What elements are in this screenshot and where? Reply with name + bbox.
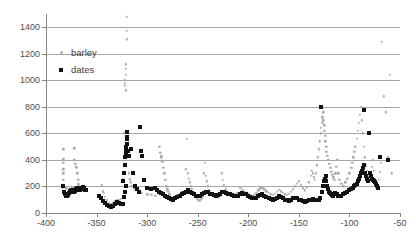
x-tick-label: -250 (189, 218, 207, 228)
data-point-dates (125, 142, 129, 146)
y-tick-label: 200 (0, 181, 40, 191)
data-point-dates (376, 186, 380, 190)
data-point-dates (319, 105, 323, 109)
x-tick-label: -300 (138, 218, 156, 228)
y-tick-label: 600 (0, 128, 40, 138)
data-point-dates (125, 130, 129, 134)
legend-label-barley: barley (71, 47, 97, 58)
data-point-dates (84, 188, 88, 192)
data-point-dates (362, 108, 366, 112)
data-point-dates (124, 184, 128, 188)
x-tick-mark (46, 213, 47, 217)
x-tick-label: -50 (393, 218, 406, 228)
x-tick-label: -200 (239, 218, 257, 228)
y-tick-mark (42, 27, 46, 28)
chart-legend: barley dates (56, 44, 97, 78)
data-point-dates (139, 149, 143, 153)
legend-item-barley: barley (56, 44, 97, 61)
data-point-dates (122, 195, 126, 199)
data-point-dates (386, 158, 390, 162)
y-tick-mark (42, 133, 46, 134)
gridline (46, 186, 400, 187)
data-point-dates (324, 179, 328, 183)
y-tick-label: 1400 (0, 22, 40, 32)
data-point-dates (137, 190, 141, 194)
legend-label-dates: dates (71, 64, 94, 75)
y-tick-label: 1200 (0, 49, 40, 59)
x-tick-label: -350 (88, 218, 106, 228)
data-point-dates (318, 196, 322, 200)
x-tick-mark (349, 213, 350, 217)
x-axis-line (46, 213, 400, 214)
dates-marker-icon (56, 68, 66, 72)
y-tick-label: 0 (0, 208, 40, 218)
x-tick-mark (400, 213, 401, 217)
y-tick-mark (42, 107, 46, 108)
gridline (46, 133, 400, 134)
data-point-dates (123, 190, 127, 194)
data-point-dates (378, 155, 382, 159)
x-tick-mark (198, 213, 199, 217)
data-point-dates (131, 171, 135, 175)
data-point-dates (121, 202, 125, 206)
gridline (46, 27, 400, 28)
data-point-dates (125, 135, 129, 139)
y-tick-label: 1000 (0, 75, 40, 85)
data-point-dates (121, 179, 125, 183)
y-tick-mark (42, 80, 46, 81)
y-tick-label: 400 (0, 155, 40, 165)
y-tick-mark (42, 186, 46, 187)
data-point-dates (123, 163, 127, 167)
gridline (46, 80, 400, 81)
y-tick-mark (42, 54, 46, 55)
x-tick-label: -150 (290, 218, 308, 228)
x-tick-mark (97, 213, 98, 217)
scatter-chart: 0200400600800100012001400 -400-350-300-2… (0, 0, 416, 245)
x-tick-mark (248, 213, 249, 217)
y-axis-line (46, 14, 47, 214)
y-tick-label: 800 (0, 102, 40, 112)
data-point-dates (140, 154, 144, 158)
x-tick-label: -400 (37, 218, 55, 228)
data-point-dates (122, 171, 126, 175)
gridline (46, 160, 400, 161)
data-point-dates (61, 184, 65, 188)
legend-item-dates: dates (56, 61, 97, 78)
y-tick-mark (42, 160, 46, 161)
x-tick-label: -100 (340, 218, 358, 228)
barley-marker-icon (56, 51, 66, 54)
data-point-dates (362, 163, 366, 167)
data-point-dates (320, 190, 324, 194)
x-tick-mark (299, 213, 300, 217)
data-point-dates (324, 174, 328, 178)
data-point-dates (138, 125, 142, 129)
gridline (46, 107, 400, 108)
data-point-dates (142, 178, 146, 182)
x-tick-mark (147, 213, 148, 217)
data-point-dates (127, 154, 131, 158)
data-point-dates (129, 147, 133, 151)
data-point-dates (367, 131, 371, 135)
gridline (46, 54, 400, 55)
